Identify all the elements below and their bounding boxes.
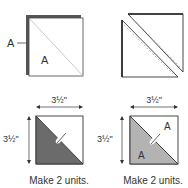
height-label: 3½": [3, 134, 19, 144]
width-label: 3½": [146, 95, 162, 105]
panel-top-left: A A: [7, 15, 83, 76]
inner-label-a: A: [41, 54, 49, 66]
caption: Make 2 units.: [123, 175, 182, 186]
panel-bottom-left: 3½" 3½" Make 2 units.: [3, 95, 89, 186]
outer-label-a: A: [7, 37, 15, 49]
panel-bottom-right: 3½" 3½" A A Make 2 units.: [97, 95, 183, 186]
diagram-canvas: A A 3½" 3½" Make 2 units. 3½" 3½: [0, 0, 188, 188]
caption: Make 2 units.: [29, 175, 88, 186]
upper-label-a: A: [164, 121, 171, 132]
lower-label-a: A: [138, 150, 145, 161]
width-label: 3½": [51, 95, 67, 105]
height-label: 3½": [97, 134, 113, 144]
panel-top-right: [122, 14, 183, 77]
